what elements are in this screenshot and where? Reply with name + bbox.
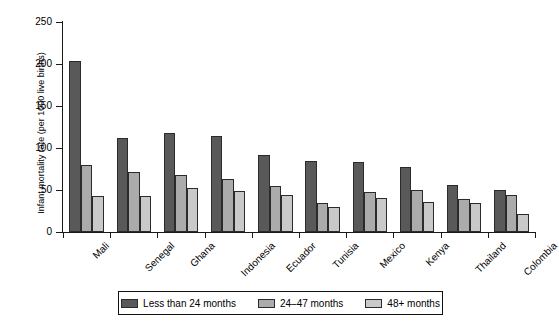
y-axis-tick bbox=[56, 148, 62, 149]
x-axis-category-label: Indonesia bbox=[239, 240, 277, 278]
bar bbox=[506, 195, 518, 232]
x-axis-category-label: Ghana bbox=[188, 240, 217, 269]
bar bbox=[423, 202, 435, 232]
bar bbox=[281, 195, 293, 232]
bar bbox=[258, 155, 270, 232]
legend-label: Less than 24 months bbox=[143, 298, 236, 309]
x-axis-tick bbox=[535, 233, 536, 238]
y-axis-tick-label: 100 bbox=[6, 143, 52, 153]
bar bbox=[317, 203, 329, 232]
y-axis-tick bbox=[56, 106, 62, 107]
x-axis-category-label: Mexico bbox=[377, 240, 407, 270]
bar bbox=[117, 138, 129, 232]
chart-legend: Less than 24 months24–47 months48+ month… bbox=[118, 291, 443, 315]
bar bbox=[411, 190, 423, 232]
x-axis-tick bbox=[110, 233, 111, 238]
legend-item: 24–47 months bbox=[258, 298, 343, 309]
bar-group bbox=[305, 22, 340, 232]
x-axis-tick bbox=[299, 233, 300, 238]
x-axis-category-label: Thailand bbox=[473, 240, 508, 275]
legend-label: 48+ months bbox=[387, 298, 440, 309]
bar-group bbox=[447, 22, 482, 232]
bar bbox=[164, 133, 176, 232]
legend-item: Less than 24 months bbox=[121, 298, 236, 309]
bar bbox=[517, 214, 529, 232]
legend-swatch-icon bbox=[121, 299, 138, 308]
bar bbox=[187, 188, 199, 232]
bar bbox=[234, 191, 246, 232]
x-axis-category-label: Ecuador bbox=[284, 240, 318, 274]
bar-group bbox=[258, 22, 293, 232]
x-axis-tick bbox=[252, 233, 253, 238]
y-axis-tick bbox=[56, 22, 62, 23]
bar bbox=[494, 190, 506, 232]
y-axis-tick-label: 50 bbox=[6, 185, 52, 195]
legend-label: 24–47 months bbox=[280, 298, 343, 309]
bar bbox=[305, 161, 317, 232]
bar bbox=[447, 185, 459, 232]
bar bbox=[328, 207, 340, 232]
y-axis-tick bbox=[56, 64, 62, 65]
x-axis-tick bbox=[441, 233, 442, 238]
y-axis-tick-label: 250 bbox=[6, 17, 52, 27]
bar bbox=[81, 165, 93, 232]
x-axis-category-label: Mali bbox=[90, 240, 111, 261]
x-axis-category-label: Tunisia bbox=[330, 240, 360, 270]
y-axis-tick-label: 150 bbox=[6, 101, 52, 111]
x-axis-tick bbox=[346, 233, 347, 238]
bar bbox=[222, 179, 234, 232]
bar bbox=[140, 196, 152, 232]
x-axis-tick bbox=[393, 233, 394, 238]
bar bbox=[353, 162, 365, 232]
x-axis-tick bbox=[63, 233, 64, 238]
bar bbox=[69, 61, 81, 232]
x-axis-tick bbox=[157, 233, 158, 238]
bar bbox=[270, 186, 282, 232]
legend-swatch-icon bbox=[365, 299, 382, 308]
x-axis-category-label: Colombia bbox=[522, 240, 559, 278]
bar-group bbox=[353, 22, 388, 232]
bar bbox=[175, 175, 187, 232]
bar bbox=[400, 167, 412, 232]
bar bbox=[458, 199, 470, 232]
bar-group bbox=[69, 22, 104, 232]
x-axis-category-label: Senegal bbox=[143, 240, 177, 274]
bar-group bbox=[117, 22, 152, 232]
bar-group bbox=[164, 22, 199, 232]
y-axis-tick bbox=[56, 190, 62, 191]
plot-area bbox=[63, 22, 535, 232]
bar bbox=[92, 196, 104, 232]
bar bbox=[128, 172, 140, 232]
bar bbox=[211, 136, 223, 232]
legend-item: 48+ months bbox=[365, 298, 440, 309]
x-axis-tick bbox=[205, 233, 206, 238]
x-axis-category-label: Kenya bbox=[423, 240, 451, 268]
bar-group bbox=[211, 22, 246, 232]
bar bbox=[470, 203, 482, 232]
y-axis-tick bbox=[56, 232, 62, 233]
y-axis-tick-label: 200 bbox=[6, 59, 52, 69]
legend-swatch-icon bbox=[258, 299, 275, 308]
bar-group bbox=[400, 22, 435, 232]
bar bbox=[376, 198, 388, 232]
x-axis-tick bbox=[488, 233, 489, 238]
bar bbox=[364, 192, 376, 232]
bar-group bbox=[494, 22, 529, 232]
y-axis-tick-label: 0 bbox=[6, 227, 52, 237]
